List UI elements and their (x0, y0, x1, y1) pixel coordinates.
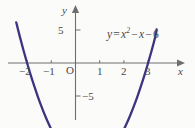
graph-figure: y x O 5 −5 −2 −1 1 2 3 y=x2−x−6 (0, 0, 195, 128)
x-tick-label-1: 1 (97, 66, 103, 77)
x-axis-label: x (178, 66, 183, 77)
x-tick-label--1: −1 (43, 66, 55, 77)
y-axis-arrowhead (72, 5, 79, 13)
plot-canvas (0, 0, 195, 128)
origin-label: O (66, 65, 74, 76)
equation-term3: 6 (153, 28, 159, 40)
x-tick-label-3: 3 (145, 66, 151, 77)
y-tick-label--5: −5 (82, 91, 94, 102)
equation-minus-1: − (130, 28, 139, 40)
x-tick-label-2: 2 (121, 66, 127, 77)
y-tick-label-5: 5 (58, 25, 64, 36)
x-tick-label--2: −2 (19, 66, 31, 77)
y-axis-label: y (62, 5, 67, 16)
equation-annotation: y=x2−x−6 (107, 29, 159, 41)
equation-equals: = (112, 28, 121, 40)
equation-minus-2: − (144, 28, 153, 40)
